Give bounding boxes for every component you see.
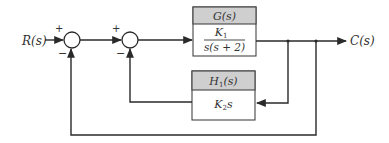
- sum2-minus-sign: −: [116, 47, 125, 60]
- feedback-block-h1: H1(s) K2s: [192, 71, 255, 120]
- block-diagram: R(s) + − + − G(s) K1 s(s + 2) C(s) H1(s)…: [0, 0, 389, 143]
- forward-block-title: G(s): [213, 10, 236, 23]
- feedback-block-title: H1(s): [208, 75, 237, 89]
- forward-denominator: s(s + 2): [204, 41, 245, 53]
- sum1-plus-sign: +: [55, 23, 63, 34]
- sum2-plus-sign: +: [112, 23, 120, 34]
- input-label: R(s): [21, 34, 47, 48]
- summing-junction-2: [122, 32, 138, 48]
- inner-feedback-to-sum2-arrow: [130, 49, 192, 102]
- inner-feedback-to-h-arrow: [257, 41, 288, 103]
- forward-block-g: G(s) K1 s(s + 2): [193, 7, 256, 56]
- output-label: C(s): [350, 34, 375, 48]
- summing-junction-1: [64, 32, 80, 48]
- sum1-minus-sign: −: [58, 47, 67, 60]
